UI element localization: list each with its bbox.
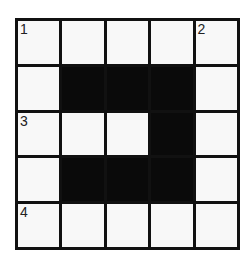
white-cell[interactable]: 3 (18, 113, 59, 156)
white-cell[interactable] (151, 204, 192, 247)
black-cell (151, 113, 192, 156)
black-cell (151, 67, 192, 110)
black-cell (107, 158, 148, 201)
white-cell[interactable] (196, 158, 237, 201)
clue-number: 4 (20, 205, 28, 219)
white-cell[interactable] (18, 67, 59, 110)
clue-number: 3 (20, 114, 28, 128)
white-cell[interactable]: 2 (196, 21, 237, 64)
white-cell[interactable]: 4 (18, 204, 59, 247)
white-cell[interactable] (62, 113, 103, 156)
black-cell (62, 67, 103, 110)
white-cell[interactable] (107, 113, 148, 156)
black-cell (107, 67, 148, 110)
clue-number: 1 (20, 22, 28, 36)
white-cell[interactable] (196, 67, 237, 110)
crossword-grid: 1234 (15, 18, 240, 250)
black-cell (62, 158, 103, 201)
white-cell[interactable] (196, 113, 237, 156)
white-cell[interactable] (62, 21, 103, 64)
white-cell[interactable] (151, 21, 192, 64)
white-cell[interactable] (107, 21, 148, 64)
white-cell[interactable] (18, 158, 59, 201)
white-cell[interactable] (62, 204, 103, 247)
white-cell[interactable]: 1 (18, 21, 59, 64)
black-cell (151, 158, 192, 201)
white-cell[interactable] (107, 204, 148, 247)
white-cell[interactable] (196, 204, 237, 247)
clue-number: 2 (198, 22, 206, 36)
